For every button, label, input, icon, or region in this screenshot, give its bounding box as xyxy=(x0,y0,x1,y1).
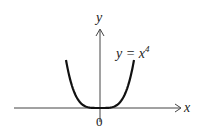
curve-label-base: y = x xyxy=(114,46,146,61)
curve-label-exponent: 4 xyxy=(145,44,150,54)
function-plot: y x 0 y = x4 xyxy=(0,0,200,135)
y-axis-label: y xyxy=(94,10,103,25)
curve-label: y = x4 xyxy=(114,44,150,61)
x-axis-label: x xyxy=(183,100,191,115)
origin-label: 0 xyxy=(96,114,103,129)
plot-canvas: y x 0 y = x4 xyxy=(0,0,200,135)
